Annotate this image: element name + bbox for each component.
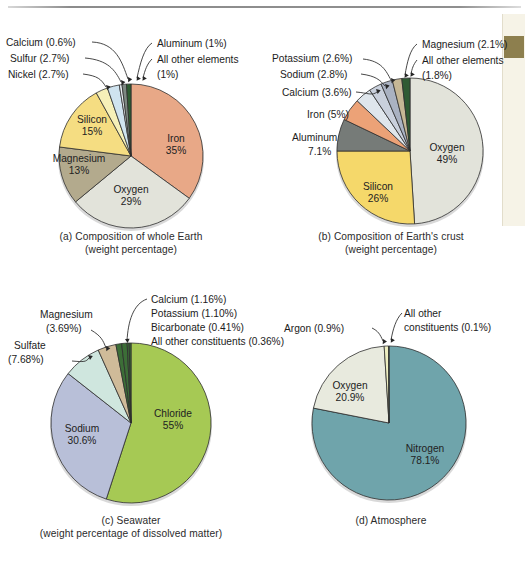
slice-value-sodium-c: 30.6%: [68, 435, 97, 446]
leader-line-magnesium-b: [405, 44, 417, 75]
caption-b-title: (b) Composition of Earth's crust: [262, 230, 520, 243]
callout-sodium-b: Sodium (2.8%): [280, 69, 347, 80]
slice-value-magnesium-a: 13%: [69, 165, 89, 176]
slice-value-silicon-a: 15%: [82, 126, 102, 137]
slice-label-oxygen-d: Oxygen: [332, 380, 367, 391]
slice-label-nitrogen-d: Nitrogen: [406, 443, 445, 454]
leader-line-magnesium-c: [91, 330, 106, 348]
leader-line-argon-d: [372, 328, 383, 341]
pie-chart-d: Nitrogen 78.1% Oxygen 20.9% Argon (0.9%)…: [262, 286, 520, 512]
callout-nickel-a: Nickel (2.7%): [8, 69, 69, 80]
caption-a-subtitle: (weight percentage): [0, 243, 262, 256]
slice-label-silicon-b: Silicon: [363, 181, 393, 192]
callout-sulfate-pct-c: (7.68%): [8, 354, 44, 365]
callout-potassium-b: Potassium (2.6%): [272, 53, 352, 64]
callout-calcium-c: Calcium (1.16%): [151, 294, 226, 305]
callout-sulfur-a: Sulfur (2.7%): [10, 53, 69, 64]
callout-allother-pct-a: (1%): [157, 69, 179, 80]
callout-allotherpct-d: constituents (0.1%): [404, 322, 491, 333]
callout-allother-b: All other elements: [422, 55, 504, 66]
pie-panel-b: Oxygen 49% Silicon 26% Aluminum 7.1% Iro…: [262, 16, 520, 264]
slice-label-oxygen-b: Oxygen: [429, 142, 464, 153]
pie-panel-a: Iron 35% Oxygen 29% Magnesium 13% Silico…: [0, 16, 262, 264]
leader-line-sulfur-a: [85, 58, 121, 82]
callout-sulfate-c: Sulfate: [14, 340, 46, 351]
slice-label-silicon-a: Silicon: [77, 114, 107, 125]
callout-calcium-a: Calcium (0.6%): [6, 37, 76, 48]
callout-iron-b: Iron (5%): [307, 109, 349, 120]
callout-bicarbonate-c: Bicarbonate (0.41%): [151, 322, 244, 333]
slice-value-iron-a: 35%: [166, 145, 186, 156]
callout-magnesium-pct-c: (3.69%): [46, 323, 82, 334]
slice-value-oxygen-d: 20.9%: [336, 392, 365, 403]
callout-argon-d: Argon (0.9%): [284, 323, 344, 334]
callout-allother-pct-b: (1.8%): [422, 70, 452, 81]
slice-value-nitrogen-d: 78.1%: [411, 455, 440, 466]
caption-d-title: (d) Atmosphere: [262, 514, 520, 527]
leader-arrowheads-d: [383, 338, 395, 344]
slice-value-chloride-c: 55%: [163, 420, 183, 431]
callout-magnesium-b: Magnesium (2.1%): [422, 39, 508, 50]
slice-label-iron-a: Iron: [167, 133, 185, 144]
slice-value-silicon-b: 26%: [368, 193, 388, 204]
pie-chart-a: Iron 35% Oxygen 29% Magnesium 13% Silico…: [0, 16, 262, 226]
leader-line-allother-b: [411, 60, 417, 74]
callout-aluminum-a: Aluminum (1%): [157, 38, 227, 49]
leader-line-nickel-a: [83, 74, 106, 87]
callout-aluminum-b: Aluminum: [292, 132, 337, 143]
callout-calcium-b: Calcium (3.6%): [282, 87, 352, 98]
callout-allother-d: All other: [404, 308, 442, 319]
leader-line-allother-d: [391, 313, 402, 340]
caption-a-title: (a) Composition of whole Earth: [0, 230, 262, 243]
slice-label-magnesium-a: Magnesium: [53, 153, 106, 164]
leader-line-potassium-b: [363, 59, 391, 80]
slice-label-sodium-c: Sodium: [65, 423, 100, 434]
callout-potassium-c: Potassium (1.10%): [151, 308, 237, 319]
slice-value-oxygen-a: 29%: [121, 196, 141, 207]
pie-chart-b: Oxygen 49% Silicon 26% Aluminum 7.1% Iro…: [262, 16, 520, 226]
leader-line-allother-a: [143, 59, 152, 78]
top-horizontal-rule: [8, 6, 521, 8]
callout-aluminum-pct-b: 7.1%: [308, 146, 331, 157]
leader-line-calcium-c: [127, 299, 147, 341]
slice-label-oxygen-a: Oxygen: [113, 184, 148, 195]
caption-c-subtitle: (weight percentage of dissolved matter): [0, 527, 262, 540]
callout-magnesium-c: Magnesium: [40, 309, 93, 320]
slice-value-oxygen-b: 49%: [437, 154, 457, 165]
caption-b-subtitle: (weight percentage): [262, 243, 520, 256]
pie-wedges-d: [312, 346, 466, 500]
pie-chart-c: Chloride 55% Sodium 30.6% Sulfate (7.68%…: [0, 286, 262, 512]
slice-label-chloride-c: Chloride: [154, 408, 192, 419]
pie-panel-c: Chloride 55% Sodium 30.6% Sulfate (7.68%…: [0, 286, 262, 546]
pie-panel-d: Nitrogen 78.1% Oxygen 20.9% Argon (0.9%)…: [262, 286, 520, 546]
caption-c-title: (c) Seawater: [0, 514, 262, 527]
figure-root: Iron 35% Oxygen 29% Magnesium 13% Silico…: [0, 0, 525, 562]
callout-allother-a: All other elements: [157, 54, 239, 65]
